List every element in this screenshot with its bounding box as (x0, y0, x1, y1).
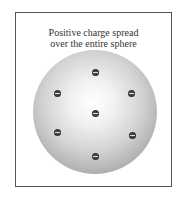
caption-line-1: Positive charge spread (15, 27, 172, 38)
caption-line-2: over the entire sphere (15, 38, 172, 49)
electron-icon (92, 153, 99, 160)
electron-icon (54, 129, 61, 136)
electron-icon (92, 69, 99, 76)
electron-icon (54, 90, 61, 97)
caption: Positive charge spread over the entire s… (15, 27, 172, 49)
electron-icon (92, 110, 99, 117)
electron-icon (129, 132, 136, 139)
electron-icon (128, 90, 135, 97)
